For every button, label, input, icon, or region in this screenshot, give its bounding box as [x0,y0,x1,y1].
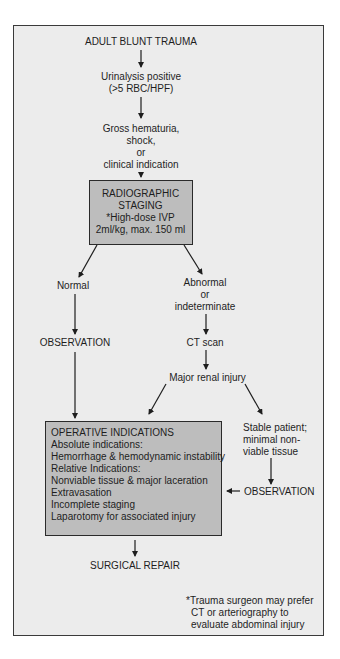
staging-line-2: STAGING [90,200,191,212]
node-stable-patient: Stable patient; minimal non- viable tiss… [243,422,323,458]
node-urinalysis: Urinalysis positive (>5 RBC/HPF) [80,71,202,95]
footnote: *Trauma surgeon may prefer CT or arterio… [186,595,316,631]
footnote-line-1: *Trauma surgeon may prefer [186,595,316,607]
node-surgical-repair: SURGICAL REPAIR [90,560,180,572]
node-major-renal-injury: Major renal injury [160,372,255,384]
radiographic-staging-box: RADIOGRAPHIC STAGING *High-dose IVP 2ml/… [89,180,193,245]
staging-line-4: 2ml/kg, max. 150 ml [90,224,191,236]
footnote-line-3: evaluate abdominal injury [186,619,316,631]
stable-line-1: Stable patient; [243,422,323,434]
node-adult-blunt-trauma: ADULT BLUNT TRAUMA [80,36,202,48]
node-observation-right: OBSERVATION [244,486,314,498]
stable-line-3: viable tissue [243,446,323,458]
node-ct-scan: CT scan [175,337,235,349]
criteria-line-4: clinical indication [80,159,202,171]
footnote-line-2: CT or arteriography to [186,607,316,619]
operative-line-3: Relative Indications: [51,463,225,475]
abnormal-line-2: or [165,289,245,301]
urinalysis-line-1: Urinalysis positive [80,71,202,83]
operative-line-1: Absolute indications: [51,439,225,451]
abnormal-line-1: Abnormal [165,277,245,289]
criteria-line-1: Gross hematuria, [80,123,202,135]
operative-line-4: Nonviable tissue & major laceration [51,475,225,487]
abnormal-line-3: indeterminate [165,301,245,313]
stable-line-2: minimal non- [243,434,323,446]
staging-line-3: *High-dose IVP [90,212,191,224]
operative-line-7: Laparotomy for associated injury [51,511,225,523]
node-criteria: Gross hematuria, shock, or clinical indi… [80,123,202,171]
operative-line-5: Extravasation [51,487,225,499]
operative-line-6: Incomplete staging [51,499,225,511]
flowchart-frame [13,25,324,636]
node-normal: Normal [47,280,99,292]
staging-line-1: RADIOGRAPHIC [90,188,191,200]
urinalysis-line-2: (>5 RBC/HPF) [80,83,202,95]
operative-title: OPERATIVE INDICATIONS [51,427,225,439]
criteria-line-3: or [80,147,202,159]
criteria-line-2: shock, [80,135,202,147]
operative-line-2: Hemorrhage & hemodynamic instability [51,451,225,463]
operative-indications-box: OPERATIVE INDICATIONS Absolute indicatio… [45,421,222,536]
node-observation-left: OBSERVATION [35,337,115,349]
node-abnormal: Abnormal or indeterminate [165,277,245,313]
